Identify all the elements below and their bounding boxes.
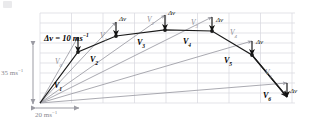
gray-vector-label-v3: V3 <box>191 19 198 29</box>
delta-v-label-3: Δv <box>168 10 175 17</box>
vector-label-v5: V5 <box>224 57 232 67</box>
grid-lines <box>40 13 295 103</box>
figure-canvas: Δv = 10 ms−1 35 ms−1 20 ms−1 V1V2V3V4V5V… <box>0 0 309 121</box>
delta-v-label-6: Δv <box>290 88 297 95</box>
vector-label-v2: V2 <box>90 56 98 66</box>
horizontal-axis-label: 20 ms−1 <box>35 110 57 119</box>
gray-vector-label-v0: V0 <box>55 58 62 68</box>
vector-diagram-svg <box>0 0 309 121</box>
delta-v-key-label: Δv = 10 ms−1 <box>44 33 89 42</box>
gray-vectors <box>40 15 287 103</box>
gray-vector-label-v2: V2 <box>147 16 154 26</box>
gray-vector-label-v4: V4 <box>230 29 237 39</box>
vector-label-v4: V4 <box>183 38 191 48</box>
delta-v-label-2: Δv <box>119 16 126 23</box>
vector-label-v1: V1 <box>54 82 62 92</box>
vector-label-v3: V3 <box>137 39 145 49</box>
delta-v-arrows <box>78 15 287 97</box>
delta-v-label-5: Δv <box>256 39 263 46</box>
gray-vector-label-v1: V1 <box>100 32 107 42</box>
vertical-axis-label: 35 ms−1 <box>1 68 23 77</box>
gray-vector-label-v5: V5 <box>265 69 272 79</box>
delta-v-label-4: Δv <box>216 17 223 24</box>
vector-label-v6: V6 <box>263 92 271 102</box>
